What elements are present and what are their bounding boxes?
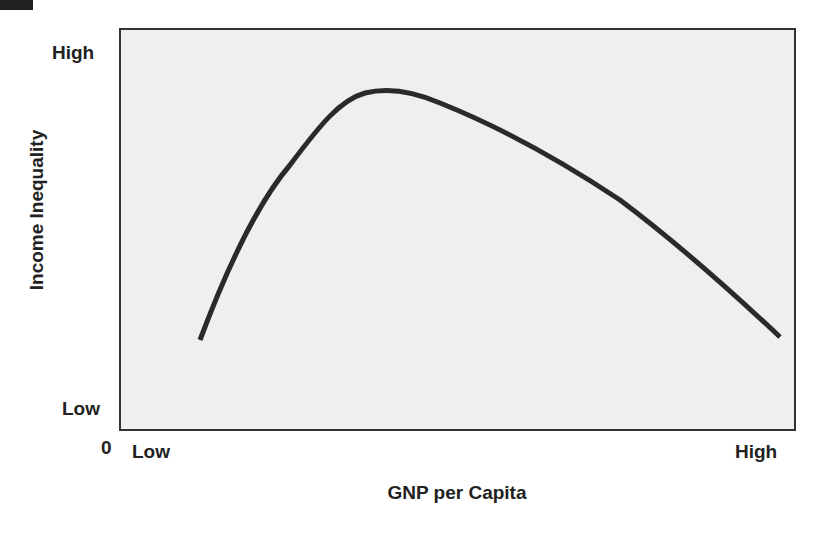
- x-axis-title: GNP per Capita: [387, 482, 526, 504]
- x-tick-low: Low: [132, 441, 170, 463]
- x-tick-high: High: [735, 441, 777, 463]
- y-axis-title: Income Inequality: [26, 130, 48, 290]
- origin-label: 0: [101, 437, 112, 459]
- y-tick-low: Low: [62, 398, 100, 420]
- y-tick-high: High: [52, 42, 94, 64]
- kuznets-curve: [0, 0, 824, 533]
